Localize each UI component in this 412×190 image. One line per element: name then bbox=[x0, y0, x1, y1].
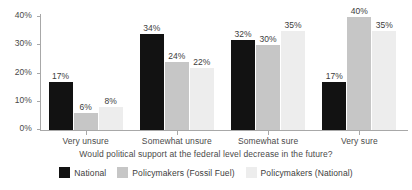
legend-swatch-icon bbox=[246, 167, 257, 178]
legend-swatch-icon bbox=[117, 167, 128, 178]
y-axis-tick-label: 0% bbox=[20, 123, 33, 133]
bar: 32% bbox=[231, 40, 255, 130]
legend-item[interactable]: National bbox=[59, 167, 106, 178]
legend-label: Policymakers (National) bbox=[261, 168, 353, 178]
bar: 35% bbox=[281, 31, 305, 130]
y-axis-tick-label: 40% bbox=[15, 10, 32, 20]
bar-group: 32%30%35% bbox=[231, 10, 305, 130]
grouped-bar-chart: 0%10%20%30%40% 17%6%8%34%24%22%32%30%35%… bbox=[0, 0, 412, 190]
bar-value-label: 22% bbox=[193, 57, 210, 67]
legend-label: National bbox=[74, 168, 106, 178]
bar: 8% bbox=[99, 107, 123, 130]
bar-value-label: 17% bbox=[52, 71, 69, 81]
y-axis-tick-label: 10% bbox=[15, 95, 32, 105]
bar: 22% bbox=[190, 68, 214, 130]
bar: 35% bbox=[372, 31, 396, 130]
x-axis-line bbox=[40, 130, 408, 131]
bar: 34% bbox=[140, 34, 164, 130]
y-axis-tick: 30% bbox=[0, 40, 40, 50]
bar-value-label: 6% bbox=[79, 102, 92, 112]
x-axis-category-label: Very sure bbox=[341, 136, 378, 146]
bar-value-label: 35% bbox=[284, 20, 301, 30]
bar: 17% bbox=[322, 82, 346, 130]
bar-value-label: 24% bbox=[168, 51, 185, 61]
bar-value-label: 30% bbox=[259, 34, 276, 44]
x-axis-category-label: Somewhat sure bbox=[238, 136, 298, 146]
x-axis-title: Would political support at the federal l… bbox=[0, 149, 412, 159]
bar-value-label: 34% bbox=[143, 23, 160, 33]
x-axis-category-label: Very unsure bbox=[62, 136, 108, 146]
plot-area: 17%6%8%34%24%22%32%30%35%17%40%35% bbox=[40, 10, 405, 130]
legend-item[interactable]: Policymakers (National) bbox=[246, 167, 353, 178]
bar: 40% bbox=[347, 17, 371, 130]
x-axis-tick-mark bbox=[268, 131, 269, 135]
legend-label: Policymakers (Fossil Fuel) bbox=[132, 168, 234, 178]
legend-item[interactable]: Policymakers (Fossil Fuel) bbox=[117, 167, 234, 178]
y-axis-tick: 10% bbox=[0, 97, 40, 107]
bar-value-label: 35% bbox=[376, 20, 393, 30]
bar: 30% bbox=[256, 45, 280, 130]
y-axis-tick: 0% bbox=[0, 125, 40, 135]
bar-value-label: 40% bbox=[351, 6, 368, 16]
x-axis-tick-mark bbox=[359, 131, 360, 135]
bar-group: 17%6%8% bbox=[49, 10, 123, 130]
x-axis-tick-mark bbox=[177, 131, 178, 135]
bar-group: 17%40%35% bbox=[322, 10, 396, 130]
x-axis-tick-mark bbox=[86, 131, 87, 135]
bar: 17% bbox=[49, 82, 73, 130]
y-axis-tick: 40% bbox=[0, 12, 40, 22]
chart-legend: NationalPolicymakers (Fossil Fuel)Policy… bbox=[0, 167, 412, 178]
y-axis-tick-label: 20% bbox=[15, 67, 32, 77]
x-axis-category-label: Somewhat unsure bbox=[142, 136, 212, 146]
legend-swatch-icon bbox=[59, 167, 70, 178]
y-axis-tick-label: 30% bbox=[15, 38, 32, 48]
bar-value-label: 8% bbox=[104, 96, 117, 106]
bar: 6% bbox=[74, 113, 98, 130]
bar-value-label: 32% bbox=[234, 29, 251, 39]
bar: 24% bbox=[165, 62, 189, 130]
bar-value-label: 17% bbox=[326, 71, 343, 81]
bar-group: 34%24%22% bbox=[140, 10, 214, 130]
y-axis-tick: 20% bbox=[0, 69, 40, 79]
